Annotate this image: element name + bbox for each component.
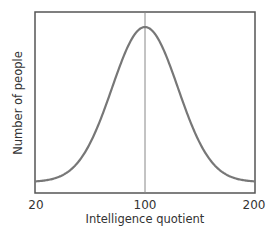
x-tick-20: 20 xyxy=(28,198,43,212)
x-tick-200: 200 xyxy=(243,198,266,212)
x-tick-100: 100 xyxy=(134,198,157,212)
x-axis-label: Intelligence quotient xyxy=(86,212,205,226)
y-axis-label: Number of people xyxy=(11,51,25,155)
normal-distribution-chart: 20 100 200 Intelligence quotient Number … xyxy=(0,0,270,226)
